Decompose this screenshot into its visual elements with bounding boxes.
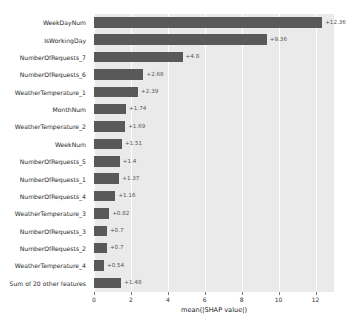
x-tick-mark (279, 292, 280, 295)
bar-value-label: +0.7 (110, 241, 124, 253)
x-tick-label: 12 (312, 296, 320, 303)
bar-value-label: +1.37 (122, 172, 139, 184)
bar-value-label: +2.39 (141, 85, 158, 97)
y-axis-label: WeatherTemperature_1 (15, 84, 90, 101)
bar-row: +1.48 (94, 275, 334, 292)
bar-value-label: +1.16 (118, 189, 135, 201)
x-tick-mark (205, 292, 206, 295)
x-tick-mark (131, 292, 132, 295)
y-axis-label: MonthNum (53, 101, 90, 118)
bar-row: +1.51 (94, 136, 334, 153)
bar[interactable] (94, 191, 115, 202)
bar-value-label: +1.48 (124, 276, 141, 288)
bar-rows: +12.36+9.36+4.8+2.68+2.39+1.74+1.69+1.51… (94, 14, 334, 292)
x-tick-label: 10 (275, 296, 283, 303)
bar[interactable] (94, 173, 119, 184)
bar[interactable] (94, 156, 120, 167)
bar-value-label: +2.68 (146, 68, 163, 80)
bar-value-label: +12.36 (325, 16, 346, 28)
bar-row: +1.37 (94, 170, 334, 187)
bar-row: +1.16 (94, 188, 334, 205)
bar-row: +1.69 (94, 118, 334, 135)
bar-row: +1.74 (94, 101, 334, 118)
bar-row: +0.7 (94, 223, 334, 240)
x-tick-mark (94, 292, 95, 295)
bar[interactable] (94, 121, 125, 132)
bar-row: +4.8 (94, 49, 334, 66)
y-axis-label: WeatherTemperature_2 (15, 118, 90, 135)
bar-value-label: +1.51 (125, 137, 142, 149)
bar-row: +0.82 (94, 205, 334, 222)
x-tick-label: 6 (203, 296, 207, 303)
bar[interactable] (94, 226, 107, 237)
y-axis-label: WeatherTemperature_3 (15, 205, 90, 222)
bar[interactable] (94, 139, 122, 150)
bar[interactable] (94, 243, 107, 254)
bar-row: +2.68 (94, 66, 334, 83)
bar[interactable] (94, 34, 267, 45)
x-tick-label: 2 (129, 296, 133, 303)
bar[interactable] (94, 52, 183, 63)
plot-area: +12.36+9.36+4.8+2.68+2.39+1.74+1.69+1.51… (94, 14, 334, 292)
bar[interactable] (94, 104, 126, 115)
y-axis-label: WeekDayNum (43, 14, 90, 31)
bar-row: +0.7 (94, 240, 334, 257)
y-axis-label: NumberOfRequests_3 (20, 223, 90, 240)
y-axis-labels: WeekDayNumIsWorkingDayNumberOfRequests_7… (0, 14, 90, 292)
bar-value-label: +1.69 (128, 120, 145, 132)
x-tick-mark (316, 292, 317, 295)
bar[interactable] (94, 278, 121, 289)
bar-row: +9.36 (94, 31, 334, 48)
x-tick-mark (242, 292, 243, 295)
y-axis-label: NumberOfRequests_4 (20, 188, 90, 205)
bar-value-label: +0.7 (110, 224, 124, 236)
y-axis-label: WeatherTemperature_4 (15, 257, 90, 274)
x-axis: 024681012 mean(|SHAP value|) (94, 292, 334, 326)
x-axis-title: mean(|SHAP value|) (94, 306, 334, 314)
bar-value-label: +9.36 (270, 33, 287, 45)
bar-value-label: +0.54 (107, 259, 124, 271)
shap-feature-importance-chart: +12.36+9.36+4.8+2.68+2.39+1.74+1.69+1.51… (0, 0, 351, 326)
bar[interactable] (94, 260, 104, 271)
y-axis-label: NumberOfRequests_5 (20, 153, 90, 170)
bar-row: +0.54 (94, 257, 334, 274)
bar-value-label: +1.74 (129, 102, 146, 114)
y-axis-label: IsWorkingDay (44, 31, 90, 48)
x-tick-label: 4 (166, 296, 170, 303)
bar-value-label: +4.8 (186, 50, 200, 62)
bar[interactable] (94, 17, 322, 28)
x-tick-label: 8 (240, 296, 244, 303)
bar-row: +12.36 (94, 14, 334, 31)
bar-value-label: +0.82 (112, 207, 129, 219)
y-axis-label: NumberOfRequests_7 (20, 49, 90, 66)
bar[interactable] (94, 208, 109, 219)
y-axis-label: Sum of 20 other features (10, 275, 90, 292)
bar-row: +1.4 (94, 153, 334, 170)
y-axis-label: NumberOfRequests_2 (20, 240, 90, 257)
bar-row: +2.39 (94, 84, 334, 101)
bar-value-label: +1.4 (123, 155, 137, 167)
bar[interactable] (94, 87, 138, 98)
bar[interactable] (94, 69, 143, 80)
x-tick-mark (168, 292, 169, 295)
x-tick-label: 0 (92, 296, 96, 303)
y-axis-label: NumberOfRequests_1 (20, 170, 90, 187)
y-axis-label: WeekNum (55, 136, 90, 153)
y-axis-label: NumberOfRequests_6 (20, 66, 90, 83)
